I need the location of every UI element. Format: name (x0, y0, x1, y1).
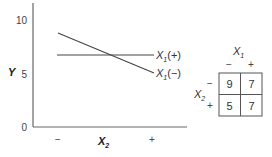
table-cell-minus-plus: 7 (248, 78, 254, 90)
table-col-plus: + (248, 59, 254, 70)
table-col-factor: X1 (232, 45, 244, 59)
table-row-plus: + (207, 100, 213, 111)
xtick-minus: − (55, 134, 61, 145)
ytick-0: 0 (21, 122, 27, 133)
ytick-10: 10 (16, 15, 28, 26)
series-x1-minus-label: X1(−) (155, 67, 181, 81)
table-row-minus: − (207, 78, 213, 89)
y-axis-label: Y (8, 66, 17, 78)
table-cell-minus-minus: 9 (226, 78, 232, 90)
interaction-plot: 10 5 0 Y − + X2 X1(+) X1(−) X1 − + X2 − … (0, 0, 272, 157)
series-x1-minus-line (58, 33, 154, 73)
table-cell-plus-minus: 5 (226, 100, 232, 112)
xtick-plus: + (149, 134, 155, 145)
means-table: X1 − + X2 − + 9 7 5 7 (193, 45, 262, 116)
table-row-factor: X2 (193, 88, 205, 102)
series-x1-plus-label: X1(+) (155, 49, 181, 63)
x-axis-label: X2 (97, 135, 109, 149)
ytick-5: 5 (21, 69, 27, 80)
table-col-minus: − (226, 59, 232, 70)
table-cell-plus-plus: 7 (248, 100, 254, 112)
